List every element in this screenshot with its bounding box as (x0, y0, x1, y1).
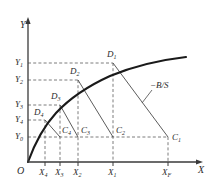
curve-point-label-d4: D4 (34, 108, 44, 117)
baseline-point-label-c4: C4 (62, 126, 71, 135)
baseline-point-label-c1: C1 (172, 133, 181, 142)
x-axis-label: X (198, 165, 204, 175)
curve-point-label-d3: D3 (51, 92, 61, 101)
slope-annotation: −B/S (150, 81, 169, 90)
curve-point-label-d2: D2 (70, 67, 80, 76)
y-tick-label-y3: Y3 (15, 100, 23, 109)
x-tick-label-x4: X4 (39, 168, 48, 177)
y-tick-label-y2: Y2 (15, 75, 23, 84)
x-tick-label-x2: X2 (73, 168, 82, 177)
y-axis-label: Y (20, 20, 26, 30)
horizontal-guides (28, 63, 168, 137)
baseline-point-label-c3: C3 (81, 126, 90, 135)
y-tick-label-y1: Y1 (15, 58, 23, 67)
frontier-curve (28, 57, 186, 162)
baseline-point-label-c2: C2 (116, 126, 125, 135)
figure-container: Y1 Y2 Y3 Y4 Y0 X4 X3 X2 X1 XF Y X O D1 D… (0, 0, 214, 190)
x-tick-label-xf: XF (162, 168, 171, 177)
y-axis-arrow (25, 17, 30, 24)
figure-canvas (0, 0, 214, 190)
curve-point-label-d1: D1 (107, 50, 117, 59)
slope-leader-line (142, 90, 152, 103)
y-tick-label-y4: Y4 (15, 115, 23, 124)
origin-label: O (17, 166, 24, 176)
x-tick-label-x3: X3 (55, 168, 64, 177)
y-tick-label-y0: Y0 (15, 132, 23, 141)
x-tick-label-x1: X1 (108, 168, 117, 177)
